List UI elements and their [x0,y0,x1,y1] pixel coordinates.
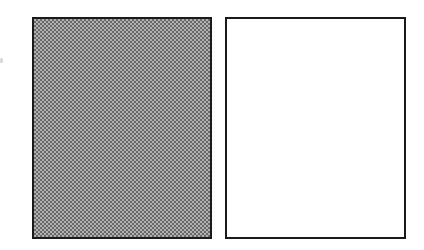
empty-panel [225,17,406,239]
figure-canvas [0,0,424,250]
edge-mark [0,58,3,63]
filled-pattern-panel [32,17,212,239]
